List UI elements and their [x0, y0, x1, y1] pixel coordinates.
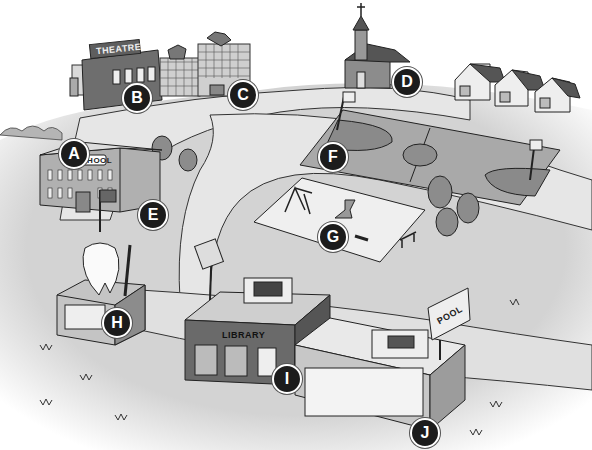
- marker-a-theatre[interactable]: A: [59, 139, 89, 169]
- marker-e-school[interactable]: E: [138, 200, 168, 230]
- marker-c-restaurant[interactable]: C: [228, 80, 258, 110]
- marker-g-playground[interactable]: G: [318, 222, 348, 252]
- marker-i-library[interactable]: I: [272, 364, 302, 394]
- marker-b-shops[interactable]: B: [122, 83, 152, 113]
- marker-f-basketball-court[interactable]: F: [318, 142, 348, 172]
- marker-h-dentist[interactable]: H: [102, 308, 132, 338]
- town-map: THEATRE SCHOOL LIBRARY POOL A B C D E F …: [0, 0, 592, 450]
- library-sign: LIBRARY: [222, 330, 265, 340]
- marker-j-pool[interactable]: J: [410, 418, 440, 448]
- marker-d-church[interactable]: D: [392, 67, 422, 97]
